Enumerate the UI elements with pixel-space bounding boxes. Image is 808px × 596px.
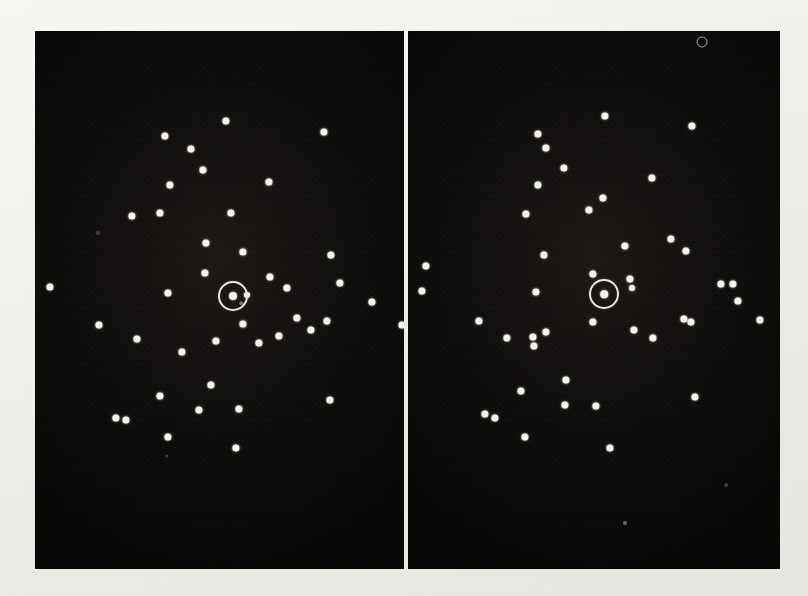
diffraction-spot	[201, 269, 208, 276]
diffraction-spot	[534, 181, 541, 188]
diffraction-spot	[199, 166, 206, 173]
diffraction-spot	[682, 247, 689, 254]
diffraction-spot	[323, 317, 330, 324]
diffraction-spot	[128, 212, 135, 219]
diffraction-spot	[629, 285, 635, 291]
diffraction-spot	[592, 402, 599, 409]
diffraction-spot	[481, 410, 488, 417]
diffraction-spot	[542, 144, 549, 151]
diffraction-spot	[418, 287, 425, 294]
diffraction-spot	[517, 387, 524, 394]
diffraction-spot	[327, 251, 334, 258]
diffraction-spot	[112, 414, 119, 421]
diffraction-spot	[255, 339, 262, 346]
diffraction-spot	[227, 209, 234, 216]
diffraction-spot	[164, 289, 171, 296]
diffraction-spot	[95, 321, 102, 328]
diffraction-spot	[589, 318, 596, 325]
diffraction-spot	[529, 333, 536, 340]
diffraction-spot	[293, 314, 300, 321]
diffraction-spot	[585, 206, 592, 213]
diffraction-spot	[534, 130, 541, 137]
diffraction-spot	[560, 164, 567, 171]
diffraction-spot	[187, 145, 194, 152]
diffraction-spot	[562, 376, 569, 383]
right-panel	[408, 31, 780, 569]
diffraction-spot	[307, 326, 314, 333]
diffraction-spot	[532, 288, 539, 295]
diffraction-spot	[606, 444, 613, 451]
left-panel	[35, 31, 404, 569]
diffraction-spot	[235, 405, 242, 412]
diffraction-spot	[724, 483, 728, 487]
diffraction-spot	[503, 334, 510, 341]
diffraction-spot	[178, 348, 185, 355]
diffraction-spot	[756, 316, 763, 323]
diffraction-spot	[156, 392, 163, 399]
diffraction-spot	[166, 181, 173, 188]
diffraction-spot	[165, 454, 168, 457]
diffraction-spot	[521, 433, 528, 440]
diffraction-spot	[212, 337, 219, 344]
diffraction-spot	[667, 235, 674, 242]
diffraction-spot	[266, 273, 273, 280]
diffraction-spot	[522, 210, 529, 217]
diffraction-spot	[542, 328, 549, 335]
diffraction-spot	[630, 326, 637, 333]
diffraction-spot	[561, 401, 568, 408]
center-spot-marker-circle	[589, 279, 619, 309]
diffraction-spot	[475, 317, 482, 324]
diffraction-spot	[239, 320, 246, 327]
diffraction-spot	[691, 393, 698, 400]
diffraction-spot	[46, 283, 53, 290]
plate-artifact-ring	[697, 37, 708, 48]
diffraction-spot	[96, 231, 100, 235]
diffraction-spot	[688, 122, 695, 129]
diffraction-spot	[589, 270, 596, 277]
diffraction-spot	[601, 112, 608, 119]
diffraction-spot	[222, 117, 229, 124]
diffraction-spot	[320, 128, 327, 135]
diffraction-spot	[422, 262, 429, 269]
diffraction-spot	[133, 335, 140, 342]
diffraction-spot	[530, 342, 537, 349]
diffraction-spot	[326, 396, 333, 403]
diffraction-spot	[239, 248, 246, 255]
diffraction-spot	[491, 414, 498, 421]
diffraction-spot	[398, 321, 404, 328]
diffraction-spot	[265, 178, 272, 185]
diffraction-figure	[0, 0, 808, 596]
diffraction-spot	[275, 332, 282, 339]
diffraction-spot	[232, 444, 239, 451]
diffraction-spot	[122, 416, 129, 423]
diffraction-spot	[195, 406, 202, 413]
diffraction-spot	[283, 284, 290, 291]
diffraction-spot	[717, 280, 724, 287]
diffraction-spot	[164, 433, 171, 440]
diffraction-spot	[336, 279, 343, 286]
diffraction-spot	[368, 298, 375, 305]
center-spot-marker-circle	[218, 281, 248, 311]
diffraction-spot	[687, 318, 694, 325]
diffraction-spot	[207, 381, 214, 388]
diffraction-spot	[161, 132, 168, 139]
diffraction-spot	[729, 280, 736, 287]
diffraction-spot	[599, 194, 606, 201]
diffraction-spot	[202, 239, 209, 246]
diffraction-spot	[621, 242, 628, 249]
diffraction-spot	[540, 251, 547, 258]
diffraction-spot	[626, 275, 633, 282]
diffraction-spot	[648, 174, 655, 181]
diffraction-spot	[156, 209, 163, 216]
diffraction-spot	[623, 521, 627, 525]
diffraction-spot	[649, 334, 656, 341]
diffraction-spot	[734, 297, 741, 304]
